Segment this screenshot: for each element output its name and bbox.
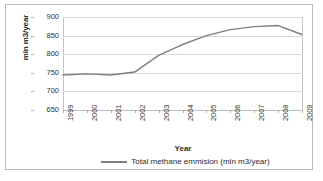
plot-area xyxy=(63,17,303,110)
y-tick-label: 900 xyxy=(37,13,59,21)
x-axis-tick-labels: 1999200020012002200320042005200620072008… xyxy=(63,111,303,143)
y-tick-label: 800 xyxy=(37,50,59,58)
x-tick-mark xyxy=(183,110,184,113)
x-axis-title: Year xyxy=(63,144,303,153)
y-axis-title: mln m3/year xyxy=(21,5,30,71)
x-tick-mark xyxy=(206,110,207,113)
x-tick-label: 2003 xyxy=(162,105,171,121)
y-tick-label: 850 xyxy=(37,32,59,40)
x-tick-label: 2004 xyxy=(186,105,195,121)
series-line-total-methane-emmision xyxy=(63,17,303,110)
y-tick-label: 750 xyxy=(37,69,59,77)
x-tick-label: 2002 xyxy=(138,105,147,121)
y-tick-mark xyxy=(31,54,34,55)
x-tick-mark xyxy=(230,110,231,113)
x-tick-label: 2005 xyxy=(209,105,218,121)
y-axis-tick-labels: 650700750800850900 xyxy=(35,17,59,110)
chart-figure: mln m3/year 650700750800850900 199920002… xyxy=(0,0,323,181)
x-tick-mark xyxy=(111,110,112,113)
y-tick-mark xyxy=(31,110,34,111)
x-tick-label: 2007 xyxy=(257,105,266,121)
y-tick-mark xyxy=(31,73,34,74)
x-tick-mark xyxy=(159,110,160,113)
x-tick-label: 2001 xyxy=(114,105,123,121)
series-path xyxy=(63,26,302,75)
y-tick-label: 700 xyxy=(37,87,59,95)
x-tick-label: 2009 xyxy=(305,105,314,121)
chart-frame: mln m3/year 650700750800850900 199920002… xyxy=(5,4,313,170)
x-tick-mark xyxy=(135,110,136,113)
x-tick-mark xyxy=(302,110,303,113)
x-tick-label: 2008 xyxy=(281,105,290,121)
x-tick-mark xyxy=(278,110,279,113)
legend-line-swatch xyxy=(101,161,127,163)
x-tick-label: 2000 xyxy=(90,105,99,121)
y-tick-mark xyxy=(31,36,34,37)
y-tick-mark xyxy=(31,17,34,18)
legend-label-total-methane-emmision: Total methane emmision (mln m3/year) xyxy=(131,157,269,166)
x-tick-label: 1999 xyxy=(66,105,75,121)
y-tick-label: 650 xyxy=(37,106,59,114)
chart-legend: Total methane emmision (mln m3/year) xyxy=(63,157,308,166)
x-tick-mark xyxy=(63,110,64,113)
x-tick-mark xyxy=(254,110,255,113)
x-tick-mark xyxy=(87,110,88,113)
y-tick-mark xyxy=(31,91,34,92)
x-tick-label: 2006 xyxy=(233,105,242,121)
